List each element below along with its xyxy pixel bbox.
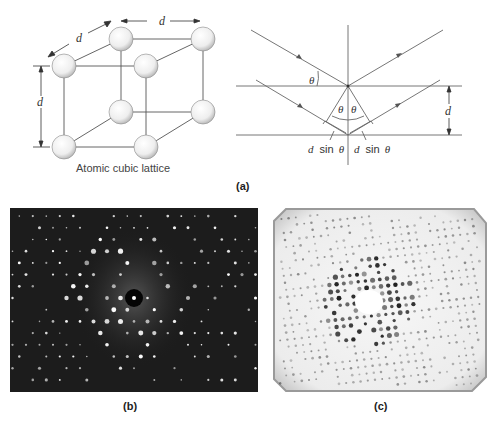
path-difference-right: d sin θ	[354, 143, 391, 155]
lattice-dim-vertical: d	[37, 95, 44, 109]
atom	[52, 54, 76, 78]
panel-c-label: (c)	[374, 400, 387, 412]
plane-spacing-label: d	[445, 104, 452, 118]
theta-right-label: θ	[351, 103, 357, 115]
diffraction-spots-bright	[10, 208, 258, 392]
theta-left-label: θ	[338, 103, 344, 115]
lattice-dim-diagonal: d	[76, 31, 83, 45]
atom	[109, 100, 133, 124]
atom	[109, 27, 133, 51]
atom	[52, 135, 76, 159]
path-difference-left: d sin θ	[308, 143, 345, 155]
diffraction-spots-dark	[272, 207, 488, 392]
atom	[191, 100, 215, 124]
theta-incidence-label: θ	[309, 74, 315, 86]
atom	[191, 27, 215, 51]
lattice-dim-top: d	[159, 14, 166, 28]
xray-diffraction-photo	[272, 207, 488, 392]
panel-b-label: (b)	[123, 400, 137, 412]
reflected-ray-upper	[348, 30, 443, 86]
panel-a-label: (a)	[236, 180, 249, 192]
bragg-reflection-diagram: d θ θ θ d sin θ d sin θ	[230, 0, 494, 185]
atomic-cubic-lattice-diagram: d d d Atomic cubic lattice	[0, 0, 240, 185]
electron-diffraction-photo	[10, 208, 258, 392]
atom	[134, 54, 158, 78]
lattice-caption: Atomic cubic lattice	[76, 162, 170, 174]
lattice-bonds	[64, 39, 203, 147]
atom	[134, 135, 158, 159]
